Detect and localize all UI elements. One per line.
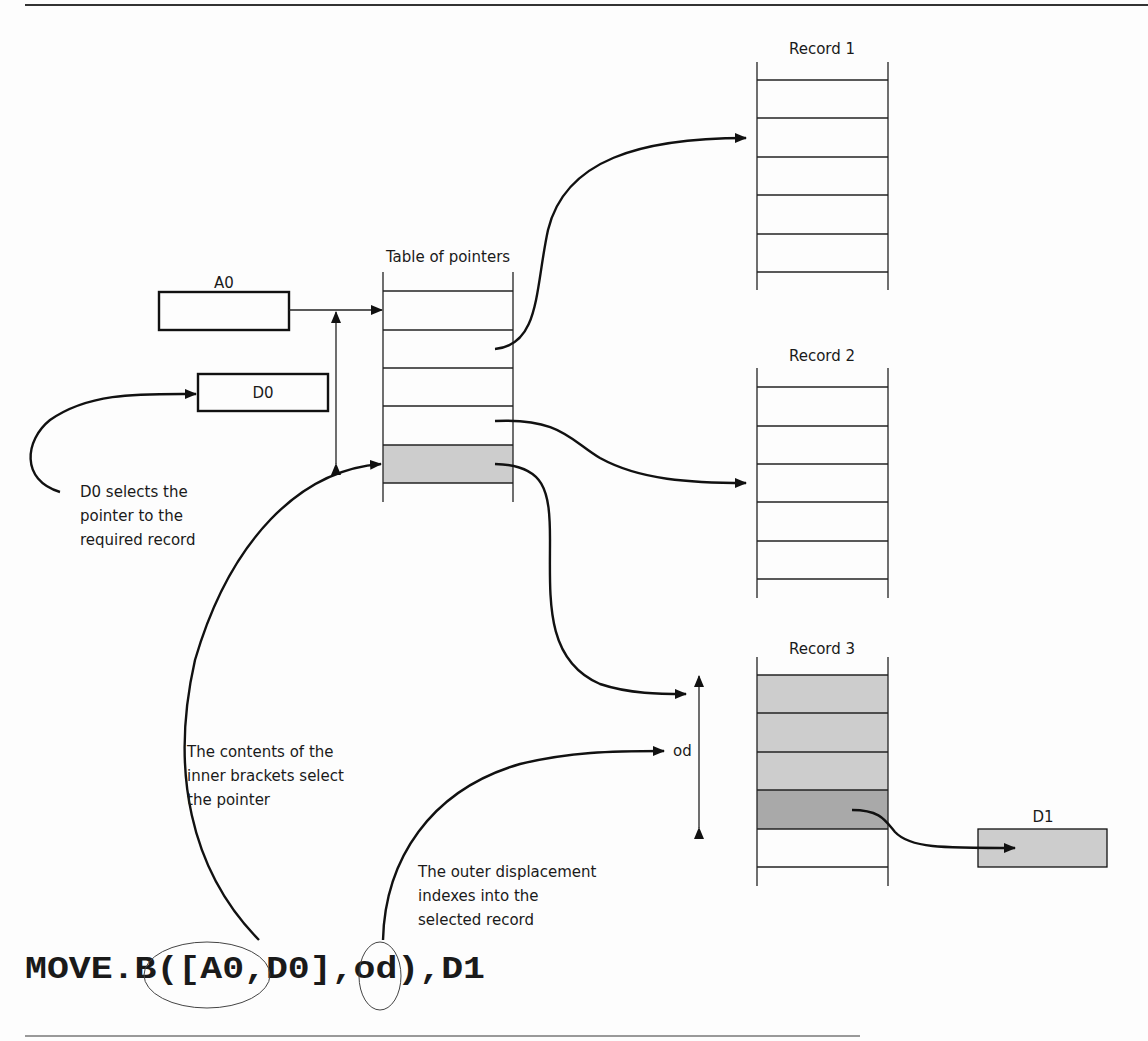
register-d1-label: D1 — [1032, 808, 1053, 826]
addressing-mode-diagram: A0 D0 Table of pointers Record 1 Record — [0, 0, 1148, 1041]
register-a0-label: A0 — [214, 274, 234, 292]
register-d0: D0 — [198, 374, 328, 411]
record-1-title: Record 1 — [789, 40, 855, 58]
register-a0: A0 — [159, 274, 289, 330]
table-selected-pointer — [383, 445, 513, 483]
d0-note: D0 selects the pointer to the required r… — [80, 483, 196, 549]
instruction-text: MOVE.B([A0,D0],od),D1 — [25, 951, 485, 988]
inner-brackets-note: The contents of the inner brackets selec… — [186, 743, 349, 809]
record-3-indexed-region — [757, 675, 888, 790]
record-2: Record 2 — [757, 347, 888, 598]
outer-displacement-note: The outer displacement indexes into the … — [417, 863, 601, 929]
d0-note-arrow — [31, 394, 196, 492]
record-1: Record 1 — [757, 40, 888, 290]
register-d0-label: D0 — [252, 384, 273, 402]
record-3-selected-element — [757, 790, 888, 829]
table-of-pointers-title: Table of pointers — [385, 248, 510, 266]
register-d1: D1 — [978, 808, 1107, 867]
table-of-pointers: Table of pointers — [383, 248, 513, 502]
record-3: Record 3 — [757, 640, 888, 886]
record-2-title: Record 2 — [789, 347, 855, 365]
selected-pointer-to-record-3-arrow — [495, 464, 686, 694]
od-label: od — [673, 742, 692, 760]
record-3-title: Record 3 — [789, 640, 855, 658]
inner-brackets-to-pointer-arrow — [185, 464, 381, 940]
pointer-to-record-1-arrow — [495, 138, 746, 349]
register-a0-box — [159, 292, 289, 330]
